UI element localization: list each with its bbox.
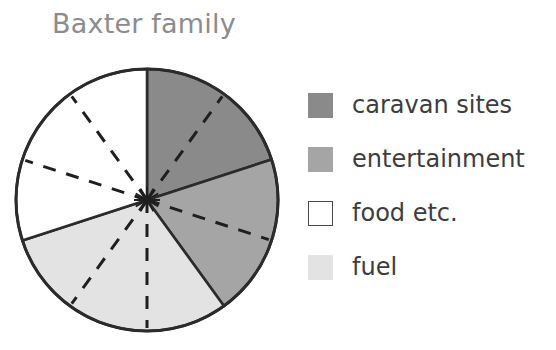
legend-item-entertainment: entertainment — [308, 132, 554, 186]
legend-item-fuel: fuel — [308, 240, 554, 294]
legend-swatch-fuel — [308, 255, 333, 280]
legend-label-entertainment: entertainment — [352, 145, 525, 173]
legend-label-food-etc: food etc. — [352, 199, 458, 227]
legend-label-fuel: fuel — [352, 253, 397, 281]
pie-chart-figure: Baxter family caravan sites entertainmen… — [0, 0, 556, 350]
legend-item-food-etc: food etc. — [308, 186, 554, 240]
legend: caravan sites entertainment food etc. fu… — [308, 78, 554, 294]
pie-chart-graphic — [0, 50, 300, 350]
legend-swatch-entertainment — [308, 147, 333, 172]
legend-item-caravan-sites: caravan sites — [308, 78, 554, 132]
legend-label-caravan-sites: caravan sites — [352, 91, 512, 119]
chart-title: Baxter family — [52, 8, 236, 39]
legend-swatch-caravan-sites — [308, 93, 333, 118]
legend-swatch-food-etc — [308, 201, 333, 226]
